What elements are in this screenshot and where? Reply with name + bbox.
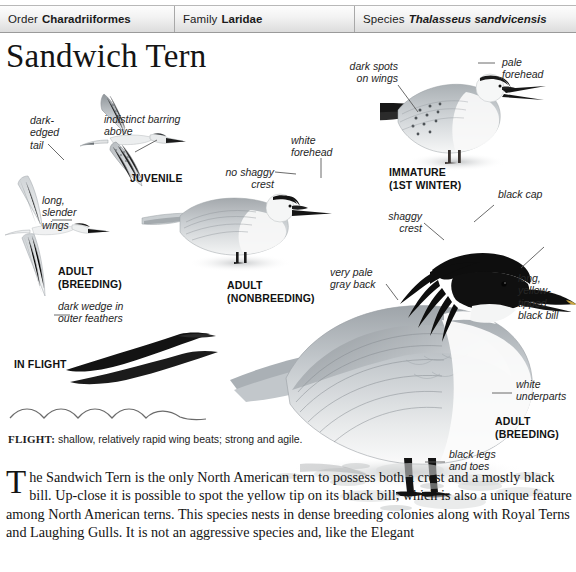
caption-immature-first-winter: IMMATURE (1ST WINTER): [389, 166, 461, 191]
flight-pattern-wave: [8, 404, 208, 426]
caption-juvenile: JUVENILE: [130, 172, 183, 185]
callout-pale-forehead: pale forehead: [502, 56, 570, 81]
callout-indistinct-barring: indistinct barring above: [104, 113, 214, 138]
page-title: Sandwich Tern: [6, 40, 206, 73]
flight-note-text: shallow, relatively rapid wing beats; st…: [55, 433, 302, 445]
callout-dark-edged-tail: dark- edged tail: [30, 114, 78, 151]
order-label: Order: [8, 13, 38, 25]
callout-white-underparts: white underparts: [516, 378, 576, 403]
family-value: Laridae: [221, 13, 262, 25]
caption-adult-breeding-flight: ADULT (BREEDING): [58, 265, 122, 290]
species-label: Species: [363, 13, 405, 25]
callout-dark-wedge: dark wedge in outer feathers: [58, 300, 168, 325]
flight-note: FLIGHT: shallow, relatively rapid wing b…: [8, 432, 308, 446]
species-value: Thalasseus sandvicensis: [409, 13, 547, 25]
callout-very-pale-gray-back: very pale gray back: [330, 266, 400, 291]
drop-cap: T: [6, 468, 29, 496]
callout-dark-spots-on-wings: dark spots on wings: [318, 60, 398, 85]
callout-white-forehead: white forehead: [291, 134, 351, 159]
callout-black-cap: black cap: [498, 188, 566, 200]
caption-in-flight: IN FLIGHT: [14, 358, 67, 371]
taxonomy-species-cell: Species Thalasseus sandvicensis: [355, 6, 576, 32]
family-label: Family: [183, 13, 217, 25]
taxonomy-header: Order Charadriiformes Family Laridae Spe…: [0, 5, 576, 33]
in-flight-silhouette-illustration: [60, 330, 230, 390]
order-value: Charadriiformes: [42, 13, 131, 25]
caption-adult-nonbreeding: ADULT (NONBREEDING): [227, 279, 315, 304]
taxonomy-family-cell: Family Laridae: [175, 6, 355, 32]
callout-shaggy-crest: shaggy crest: [368, 210, 422, 235]
species-description: The Sandwich Tern is the only North Amer…: [6, 468, 572, 542]
callout-long-slender-wings: long, slender wings: [42, 194, 112, 231]
flight-note-label: FLIGHT:: [8, 433, 55, 445]
caption-adult-breeding: ADULT (BREEDING): [495, 415, 559, 440]
callout-no-shaggy-crest: no shaggy crest: [200, 166, 274, 191]
callout-long-yellow-tipped-black-bill: long, yellow- tipped black bill: [518, 272, 576, 322]
description-paragraph: he Sandwich Tern is the only North Ameri…: [6, 469, 572, 540]
taxonomy-order-cell: Order Charadriiformes: [0, 6, 175, 32]
field-guide-page: Order Charadriiformes Family Laridae Spe…: [0, 0, 576, 572]
